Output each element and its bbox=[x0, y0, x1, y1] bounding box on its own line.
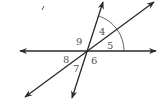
angle-label-4: 4 bbox=[99, 26, 105, 37]
angle-label-8: 8 bbox=[63, 54, 69, 65]
steep-line bbox=[72, 2, 103, 98]
angle-label-9: 9 bbox=[76, 36, 82, 47]
stray-tick-mark bbox=[42, 6, 44, 10]
angle-label-6: 6 bbox=[91, 55, 97, 66]
angle-diagram: 4 5 9 8 6 7 bbox=[0, 0, 164, 108]
angle-label-5: 5 bbox=[107, 40, 113, 51]
diagonal-line bbox=[25, 2, 154, 97]
angle-label-7: 7 bbox=[73, 63, 79, 74]
